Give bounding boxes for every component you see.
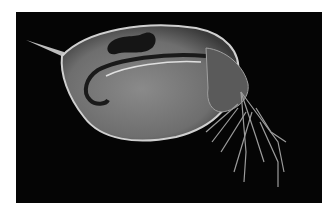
daphnia-illustration bbox=[16, 12, 322, 203]
tail-spine bbox=[26, 40, 66, 58]
daphnia-photo bbox=[16, 12, 322, 203]
